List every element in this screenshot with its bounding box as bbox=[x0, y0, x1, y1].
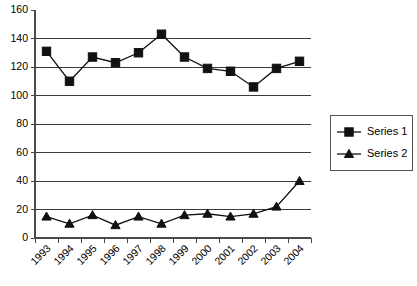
chart-container: 020406080100120140160 199319941995199619… bbox=[0, 0, 417, 286]
x-axis-tick-labels: 1993199419951996199719981999200020012002… bbox=[28, 242, 306, 267]
x-tick-label: 2003 bbox=[258, 242, 283, 267]
data-point-marker bbox=[180, 53, 188, 61]
x-tick-label: 2004 bbox=[281, 242, 306, 267]
data-point-marker bbox=[272, 64, 280, 72]
data-point-marker bbox=[203, 64, 211, 72]
x-tick-label: 1994 bbox=[51, 242, 76, 267]
data-point-marker bbox=[111, 59, 119, 67]
y-tick-label: 40 bbox=[16, 174, 28, 186]
data-point-marker bbox=[134, 212, 143, 220]
line-chart: 020406080100120140160 199319941995199619… bbox=[0, 0, 417, 286]
y-tick-label: 80 bbox=[16, 117, 28, 129]
data-point-marker bbox=[65, 77, 73, 85]
data-point-marker bbox=[226, 67, 234, 75]
chart-legend: Series 1Series 2 bbox=[330, 115, 412, 170]
gridlines bbox=[35, 39, 311, 239]
x-tick-label: 1997 bbox=[120, 242, 145, 267]
legend-square-icon bbox=[345, 128, 353, 136]
data-point-marker bbox=[295, 176, 304, 184]
y-axis bbox=[31, 10, 35, 238]
data-point-marker bbox=[249, 83, 257, 91]
y-tick-label: 20 bbox=[16, 203, 28, 215]
x-tick-label: 1998 bbox=[143, 242, 168, 267]
y-tick-label: 60 bbox=[16, 146, 28, 158]
data-point-marker bbox=[203, 209, 212, 217]
data-point-marker bbox=[42, 47, 50, 55]
x-tick-label: 1996 bbox=[97, 242, 122, 267]
x-tick-label: 1995 bbox=[74, 242, 99, 267]
x-tick-label: 2002 bbox=[235, 242, 260, 267]
y-tick-label: 160 bbox=[10, 3, 28, 15]
data-point-marker bbox=[42, 212, 51, 220]
series-2 bbox=[42, 176, 304, 228]
y-tick-label: 120 bbox=[10, 60, 28, 72]
data-point-marker bbox=[157, 30, 165, 38]
legend-label: Series 1 bbox=[367, 125, 407, 137]
series-plot-area bbox=[42, 30, 304, 229]
data-point-marker bbox=[295, 57, 303, 65]
data-point-marker bbox=[88, 53, 96, 61]
x-tick-label: 1993 bbox=[28, 242, 53, 267]
y-tick-label: 100 bbox=[10, 89, 28, 101]
x-tick-label: 2000 bbox=[189, 242, 214, 267]
series-1 bbox=[42, 30, 303, 91]
legend-label: Series 2 bbox=[367, 147, 407, 159]
data-point-marker bbox=[88, 211, 97, 219]
series-line-1 bbox=[47, 34, 300, 87]
y-tick-label: 0 bbox=[22, 231, 28, 243]
y-axis-tick-labels: 020406080100120140160 bbox=[10, 3, 28, 243]
data-point-marker bbox=[134, 49, 142, 57]
series-line-2 bbox=[47, 181, 300, 225]
x-axis bbox=[35, 238, 311, 243]
y-tick-label: 140 bbox=[10, 32, 28, 44]
legend-box bbox=[330, 115, 412, 170]
x-tick-label: 2001 bbox=[212, 242, 237, 267]
x-tick-label: 1999 bbox=[166, 242, 191, 267]
